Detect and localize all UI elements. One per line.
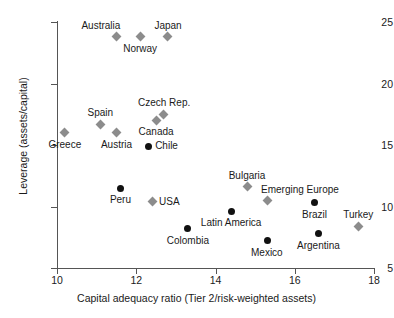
data-point-mexico[interactable] — [264, 237, 271, 244]
y-tick-20 — [51, 84, 57, 85]
data-point-emerging-europe[interactable] — [262, 195, 272, 205]
x-axis-title: Capital adequacy ratio (Tier 2/risk-weig… — [0, 292, 393, 304]
y-axis-title: Leverage (assets/capital) — [17, 51, 29, 221]
point-label-colombia: Colombia — [167, 236, 209, 246]
data-point-chile[interactable] — [145, 143, 152, 150]
data-point-australia[interactable] — [111, 32, 121, 42]
data-point-argentina[interactable] — [315, 230, 322, 237]
data-point-peru[interactable] — [117, 185, 124, 192]
point-label-bulgaria: Bulgaria — [229, 171, 266, 181]
y-tick-25 — [51, 22, 57, 23]
x-tick-label-14: 14 — [196, 275, 236, 286]
point-label-czech-rep-: Czech Rep. — [138, 98, 190, 108]
data-point-norway[interactable] — [135, 32, 145, 42]
point-label-peru: Peru — [110, 195, 131, 205]
point-label-latin-america: Latin America — [201, 218, 262, 228]
point-label-mexico: Mexico — [251, 248, 283, 258]
data-point-brazil[interactable] — [311, 199, 318, 206]
data-point-turkey[interactable] — [353, 221, 363, 231]
point-label-canada: Canada — [139, 127, 174, 137]
point-label-brazil: Brazil — [302, 210, 327, 220]
point-label-norway: Norway — [123, 44, 157, 54]
y-tick-label-15: 15 — [349, 140, 393, 151]
point-label-spain: Spain — [88, 108, 114, 118]
data-point-canada[interactable] — [151, 115, 161, 125]
point-label-turkey: Turkey — [343, 210, 373, 220]
x-tick-label-18: 18 — [354, 275, 394, 286]
y-tick-10 — [51, 207, 57, 208]
data-point-greece[interactable] — [60, 128, 70, 138]
y-tick-label-25: 25 — [349, 17, 393, 28]
y-tick-label-5: 5 — [349, 263, 393, 274]
x-tick-label-12: 12 — [116, 275, 156, 286]
point-label-emerging-europe: Emerging Europe — [261, 185, 339, 195]
data-point-czech-rep-[interactable] — [159, 109, 169, 119]
point-label-argentina: Argentina — [297, 241, 340, 251]
data-point-spain[interactable] — [96, 119, 106, 129]
data-point-bulgaria[interactable] — [242, 182, 252, 192]
x-tick-label-16: 16 — [275, 275, 315, 286]
point-label-japan: Japan — [154, 21, 181, 31]
x-tick-label-10: 10 — [37, 275, 77, 286]
point-label-greece: Greece — [48, 140, 81, 150]
point-label-australia: Australia — [81, 21, 120, 31]
data-point-usa[interactable] — [147, 197, 157, 207]
point-label-usa: USA — [159, 197, 180, 207]
data-point-colombia[interactable] — [184, 225, 191, 232]
point-label-austria: Austria — [101, 140, 132, 150]
point-label-chile: Chile — [155, 141, 178, 151]
data-point-austria[interactable] — [111, 128, 121, 138]
data-point-japan[interactable] — [163, 32, 173, 42]
y-tick-label-20: 20 — [349, 79, 393, 90]
data-point-latin-america[interactable] — [228, 208, 235, 215]
